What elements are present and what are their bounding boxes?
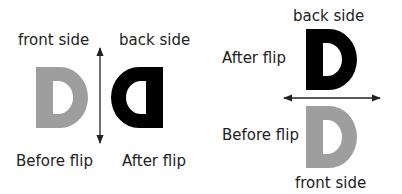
letter-d-back-mirrored — [111, 67, 163, 128]
label-before-flip-left: Before flip — [16, 152, 93, 170]
label-front-side-left: front side — [18, 31, 89, 49]
label-after-flip-right: After flip — [222, 49, 286, 67]
label-back-side-right: back side — [293, 7, 364, 25]
label-back-side-left: back side — [119, 31, 190, 49]
letter-d-front-right — [306, 106, 357, 168]
label-before-flip-right: Before flip — [222, 126, 299, 144]
label-front-side-right: front side — [295, 174, 366, 192]
letter-d-back-right — [306, 29, 357, 90]
letter-d-front-left — [36, 67, 88, 128]
label-after-flip-left: After flip — [122, 152, 186, 170]
